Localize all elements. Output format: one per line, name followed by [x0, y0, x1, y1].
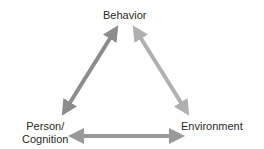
arrow-behavior-person [66, 32, 114, 109]
node-behavior: Behavior [103, 9, 146, 22]
node-person-cognition: Person/ Cognition [22, 120, 68, 146]
node-environment: Environment [181, 120, 243, 133]
node-person-line1: Person/ [22, 120, 68, 133]
node-person-line2: Cognition [22, 133, 68, 146]
arrow-behavior-environment [137, 32, 185, 109]
